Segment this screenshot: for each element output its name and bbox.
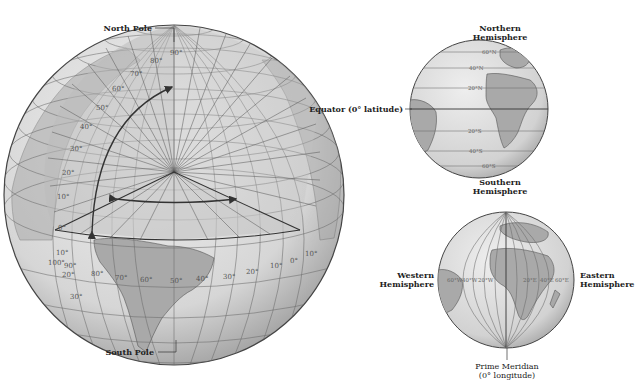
svg-text:20°E: 20°E bbox=[523, 277, 537, 283]
svg-text:50°: 50° bbox=[170, 277, 182, 285]
svg-text:40°: 40° bbox=[196, 275, 208, 283]
svg-text:20°S: 20°S bbox=[468, 128, 482, 134]
main-globe: North Pole South Pole 90° 80° 70° 60° 50… bbox=[4, 20, 344, 365]
svg-text:60°S: 60°S bbox=[482, 163, 496, 169]
svg-text:20°: 20° bbox=[62, 169, 74, 177]
svg-text:0°: 0° bbox=[58, 224, 66, 232]
prime-meridian-label-1: Prime Meridian bbox=[475, 362, 539, 371]
svg-text:40°N: 40°N bbox=[469, 65, 484, 71]
svg-text:80°: 80° bbox=[91, 270, 103, 278]
northern-hemisphere-label-2: Hemisphere bbox=[473, 32, 527, 42]
north-pole-label: North Pole bbox=[104, 23, 152, 33]
svg-text:10°: 10° bbox=[57, 193, 69, 201]
svg-text:40°S: 40°S bbox=[469, 148, 483, 154]
svg-text:0°: 0° bbox=[290, 257, 298, 265]
svg-text:40°E: 40°E bbox=[540, 277, 554, 283]
ns-hemisphere-globe: 60°N 40°N 20°N 20°S 40°S 60°S Northern H… bbox=[309, 23, 560, 196]
svg-text:90°: 90° bbox=[64, 262, 76, 270]
svg-text:70°: 70° bbox=[130, 70, 142, 78]
svg-text:60°: 60° bbox=[112, 85, 124, 93]
svg-text:20°: 20° bbox=[246, 268, 258, 276]
svg-text:100°: 100° bbox=[48, 259, 65, 267]
svg-text:20°W: 20°W bbox=[478, 277, 494, 283]
equator-label: Equator (0° latitude) bbox=[309, 104, 403, 114]
svg-text:10°: 10° bbox=[270, 262, 282, 270]
svg-text:80°: 80° bbox=[150, 57, 162, 65]
svg-text:30°: 30° bbox=[223, 273, 235, 281]
svg-text:10°: 10° bbox=[305, 250, 317, 258]
svg-text:30°: 30° bbox=[70, 293, 82, 301]
svg-text:60°: 60° bbox=[140, 276, 152, 284]
svg-text:20°N: 20°N bbox=[468, 85, 483, 91]
southern-hemisphere-label-2: Hemisphere bbox=[473, 186, 527, 196]
prime-meridian-label-2: (0° longitude) bbox=[479, 371, 535, 380]
svg-text:60°E: 60°E bbox=[555, 277, 569, 283]
svg-text:30°: 30° bbox=[70, 145, 82, 153]
ew-hemisphere-globe: 60°W 40°W 20°W 20°E 40°E 60°E Western He… bbox=[380, 212, 635, 380]
svg-text:20°: 20° bbox=[62, 271, 74, 279]
svg-text:70°: 70° bbox=[115, 274, 127, 282]
svg-text:40°W: 40°W bbox=[462, 277, 478, 283]
western-hemisphere-label-2: Hemisphere bbox=[380, 279, 434, 289]
south-pole-label: South Pole bbox=[106, 347, 155, 357]
svg-text:60°N: 60°N bbox=[482, 49, 497, 55]
svg-text:50°: 50° bbox=[96, 104, 108, 112]
svg-text:60°W: 60°W bbox=[447, 277, 463, 283]
svg-text:90°: 90° bbox=[170, 49, 182, 57]
svg-text:10°: 10° bbox=[56, 249, 68, 257]
globe-diagram: North Pole South Pole 90° 80° 70° 60° 50… bbox=[0, 0, 639, 389]
svg-text:40°: 40° bbox=[80, 123, 92, 131]
eastern-hemisphere-label-2: Hemisphere bbox=[580, 279, 634, 289]
